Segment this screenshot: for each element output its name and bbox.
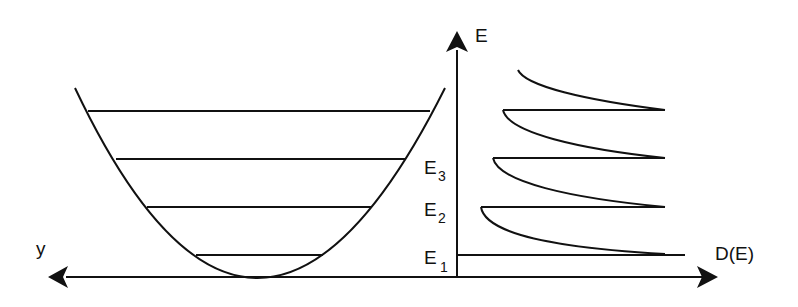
up-arrow-icon (446, 31, 468, 52)
svg-text:1: 1 (440, 259, 448, 275)
parabolic-potential (75, 88, 445, 278)
dos-branch-4 (518, 70, 665, 110)
svg-text:E: E (424, 157, 437, 178)
dos-axis-label: D(E) (715, 243, 754, 264)
left-arrow-icon (48, 266, 68, 288)
level-label-e3: E 3 (424, 157, 446, 184)
dos-branch-3 (503, 110, 665, 158)
level-label-e1: E 1 (424, 247, 448, 275)
level-label-e2: E 2 (424, 199, 446, 226)
horizontal-axis (48, 266, 718, 288)
diagram-canvas: E y D(E) E 3 E 2 E 1 (0, 0, 798, 307)
svg-text:2: 2 (438, 210, 446, 226)
svg-text:3: 3 (438, 168, 446, 184)
svg-text:E: E (424, 199, 437, 220)
energy-axis (446, 31, 468, 277)
well-energy-levels (88, 111, 430, 255)
dos-branch-2 (493, 158, 665, 207)
density-of-states-curve (457, 70, 685, 255)
svg-text:E: E (424, 247, 437, 268)
position-axis-label: y (36, 238, 46, 259)
energy-axis-label: E (475, 25, 488, 46)
dos-branch-1 (481, 207, 665, 254)
